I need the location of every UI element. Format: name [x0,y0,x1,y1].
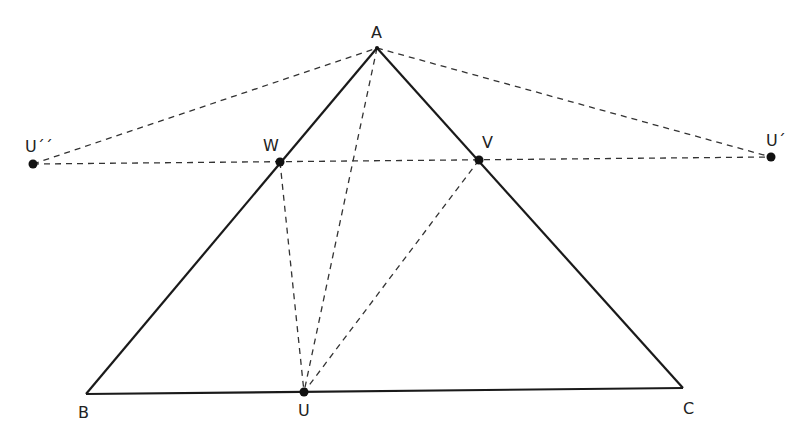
side-ac [377,48,683,388]
point-a [375,46,379,50]
point-u1 [767,153,776,162]
segment-v-u [304,160,479,392]
side-bc [86,388,683,394]
label-u1: U´ [766,131,786,150]
segment-u2-a [33,48,377,164]
segment-a-u1 [377,48,771,157]
label-a: A [371,23,382,42]
label-u2: U´´ [25,137,53,156]
point-u2 [29,160,38,169]
point-v [475,156,484,165]
label-v: V [482,133,493,152]
points [29,46,776,397]
label-u: U [298,401,310,420]
dashed-lines [33,48,771,392]
geometry-diagram: A B C U W V U´ U´´ [0,0,807,444]
point-w [276,158,285,167]
segment-a-u [304,48,377,392]
point-u [300,388,309,397]
label-b: B [78,403,89,422]
label-c: C [683,399,694,418]
side-ab [86,48,377,394]
segment-u2-u1 [33,157,771,164]
segment-w-u [280,162,304,392]
label-w: W [263,136,279,155]
triangle-abc [86,48,683,394]
